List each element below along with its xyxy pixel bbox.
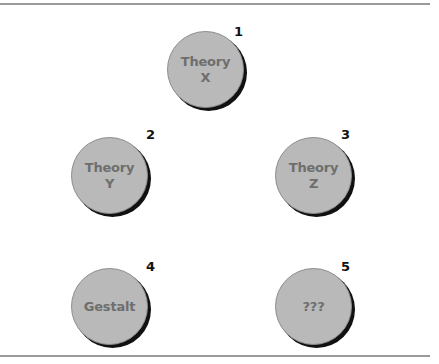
node-label-line2: X — [201, 70, 211, 86]
circle-node: ??? — [275, 268, 352, 345]
node-gestalt: Gestalt — [71, 268, 148, 345]
circle-node: Gestalt — [71, 268, 148, 345]
node-label-line1: Theory — [181, 54, 231, 70]
node-label-line1: Theory — [289, 160, 339, 176]
node-unknown: ??? — [275, 268, 352, 345]
node-number: 3 — [341, 128, 350, 141]
node-number: 5 — [341, 260, 350, 273]
bottom-divider — [0, 355, 430, 357]
node-number: 4 — [146, 260, 155, 273]
node-theory-x: Theory X — [167, 31, 244, 108]
circle-node: Theory Y — [71, 137, 148, 214]
circle-node: Theory Z — [275, 137, 352, 214]
node-label-line1: Gestalt — [84, 299, 135, 315]
node-theory-z: Theory Z — [275, 137, 352, 214]
circle-node: Theory X — [167, 31, 244, 108]
node-label-line1: Theory — [85, 160, 135, 176]
node-label-line1: ??? — [302, 299, 324, 315]
node-theory-y: Theory Y — [71, 137, 148, 214]
node-number: 2 — [146, 128, 155, 141]
node-number: 1 — [234, 25, 243, 38]
node-label-line2: Y — [105, 176, 114, 192]
node-label-line2: Z — [309, 176, 318, 192]
top-divider — [0, 3, 430, 5]
